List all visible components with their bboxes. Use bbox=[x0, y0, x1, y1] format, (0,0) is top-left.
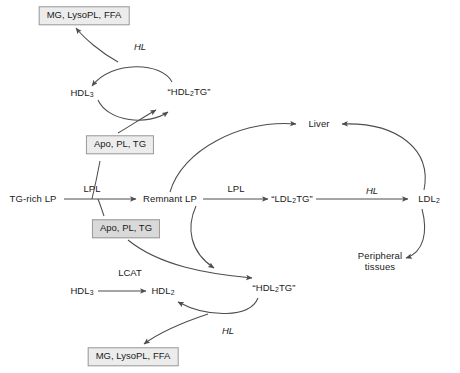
edge-apo-lower-to-hdl2tg-bottom bbox=[128, 240, 252, 278]
node-ldl2: LDL2 bbox=[418, 194, 440, 205]
enzyme-label-lpl-left: LPL bbox=[84, 183, 101, 194]
node-hdl3-bottom: HDL3 bbox=[70, 286, 93, 297]
enzyme-label-hl-bottom: HL bbox=[222, 325, 234, 336]
enzyme-label-hl-right: HL bbox=[366, 185, 378, 196]
node-tg-rich-lp: TG-rich LP bbox=[10, 194, 57, 205]
node-products-bottom: MG, LysoPL, FFA bbox=[88, 347, 179, 366]
node-apo-pl-tg-upper: Apo, PL, TG bbox=[86, 135, 154, 154]
edge-apo-upper-to-hdl2tg bbox=[118, 110, 156, 133]
edge-hl-to-products-bottom bbox=[144, 314, 208, 344]
node-products-top: MG, LysoPL, FFA bbox=[39, 6, 130, 25]
edge-hdl2tg-to-hdl3-top bbox=[92, 67, 172, 86]
edge-ldl2-to-liver bbox=[342, 124, 425, 190]
edge-ldl2-to-peripheral bbox=[406, 209, 425, 258]
enzyme-label-lcat: LCAT bbox=[118, 267, 142, 278]
node-hdl3-top: HDL3 bbox=[70, 88, 93, 99]
node-liver: Liver bbox=[308, 119, 329, 130]
node-hdl2-bottom: HDL2 bbox=[151, 286, 174, 297]
edge-hl-to-products-top bbox=[76, 28, 118, 62]
node-apo-pl-tg-lower: Apo, PL, TG bbox=[92, 219, 160, 238]
edge-hdl3-to-hdl2tg-top bbox=[98, 100, 168, 120]
edge-hdl2tg-to-hdl2-bottom bbox=[178, 298, 258, 314]
edge-apo-lower-tick bbox=[98, 199, 104, 216]
node-peripheral-tissues: Peripheral tissues bbox=[358, 251, 402, 273]
edge-remnantlp-to-hdl2tg-bottom bbox=[191, 206, 214, 268]
node-remnant-lp: Remnant LP bbox=[143, 194, 197, 205]
node-hdl2tg-bottom: “HDL2TG” bbox=[252, 283, 295, 294]
pathway-diagram: MG, LysoPL, FFA Apo, PL, TG Apo, PL, TG … bbox=[0, 0, 460, 373]
enzyme-label-lpl-right: LPL bbox=[228, 183, 245, 194]
node-ldl2tg: “LDL2TG” bbox=[271, 194, 313, 205]
enzyme-label-hl-top: HL bbox=[134, 41, 146, 52]
node-hdl2tg-top: “HDL2TG” bbox=[167, 87, 210, 98]
